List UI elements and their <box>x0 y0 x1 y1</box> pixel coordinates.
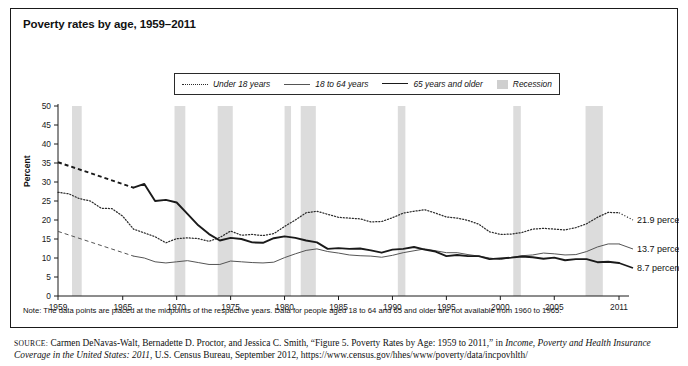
recession-band <box>586 106 603 296</box>
series-end-label: 8.7 percent <box>637 263 679 273</box>
y-axis-tick-label: 35 <box>42 158 52 168</box>
y-axis-tick-label: 15 <box>42 234 52 244</box>
end-label-leader-line <box>619 263 633 268</box>
source-keyword: SOURCE: <box>14 339 48 348</box>
plot-area: 0510152025303540455019591965197019751980… <box>11 9 679 329</box>
series-end-label: 21.9 percent <box>637 215 679 225</box>
y-axis-tick-label: 5 <box>46 272 51 282</box>
figure-page: Poverty rates by age, 1959–2011 Under 18… <box>0 0 688 366</box>
y-axis-tick-label: 40 <box>42 139 52 149</box>
y-axis-tick-label: 25 <box>42 196 52 206</box>
y-axis-tick-label: 50 <box>42 101 52 111</box>
series-line <box>134 184 619 263</box>
series-line <box>58 192 619 243</box>
recession-band <box>175 106 186 296</box>
end-label-leader-line <box>619 244 633 249</box>
recession-band <box>285 106 291 296</box>
series-line-dashed-segment <box>58 231 134 256</box>
poverty-rate-line-chart: 0510152025303540455019591965197019751980… <box>11 9 679 329</box>
recession-band <box>513 106 521 296</box>
figure-source: SOURCE: Carmen DeNavas-Walt, Bernadette … <box>14 337 676 362</box>
recession-band <box>398 106 406 296</box>
figure-note: Note: The data points are placed at the … <box>23 306 669 316</box>
recession-band <box>218 106 233 296</box>
series-end-label: 13.7 percent <box>637 244 679 254</box>
y-axis-tick-label: 0 <box>46 291 51 301</box>
recession-band <box>72 106 82 296</box>
y-axis-tick-label: 45 <box>42 120 52 130</box>
y-axis-tick-label: 20 <box>42 215 52 225</box>
series-line-dashed-segment <box>58 162 134 187</box>
series-line <box>134 244 619 265</box>
figure-box: Poverty rates by age, 1959–2011 Under 18… <box>10 8 678 328</box>
end-label-leader-line <box>619 213 633 220</box>
source-text-part2: , U.S. Census Bureau, September 2012, ht… <box>150 350 528 360</box>
recession-band <box>301 106 316 296</box>
y-axis-tick-label: 10 <box>42 253 52 263</box>
y-axis-tick-label: 30 <box>42 177 52 187</box>
source-text-part1: Carmen DeNavas-Walt, Bernadette D. Proct… <box>48 338 505 348</box>
